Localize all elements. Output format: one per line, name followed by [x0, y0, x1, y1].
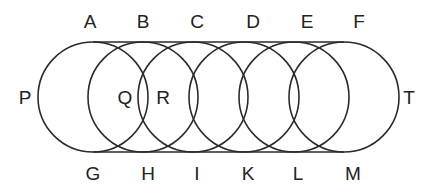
label-h: H [141, 163, 155, 184]
label-f: F [353, 11, 365, 32]
circle-2 [88, 42, 198, 152]
label-m: M [345, 163, 361, 184]
label-i: I [194, 163, 199, 184]
label-g: G [86, 163, 101, 184]
label-b: B [137, 11, 150, 32]
label-r: R [156, 87, 170, 108]
label-d: D [246, 11, 260, 32]
label-l: L [293, 163, 304, 184]
label-e: E [301, 11, 314, 32]
circle-diagram: ABCDEFGHIKLMPTQR [0, 0, 431, 195]
label-k: K [242, 163, 255, 184]
label-t: T [403, 87, 415, 108]
label-c: C [190, 11, 204, 32]
circles-group [38, 42, 399, 152]
point-labels: ABCDEFGHIKLMPTQR [19, 11, 416, 184]
label-q: Q [118, 87, 133, 108]
circle-4 [189, 42, 299, 152]
label-a: A [84, 11, 97, 32]
circle-3 [138, 42, 248, 152]
circle-6 [289, 42, 399, 152]
circle-5 [239, 42, 349, 152]
label-p: P [19, 87, 32, 108]
